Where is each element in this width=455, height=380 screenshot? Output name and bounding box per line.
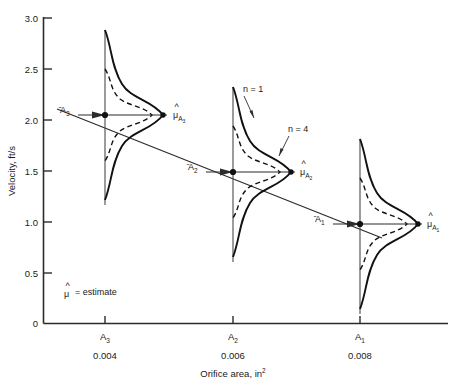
velocity-vs-orifice-area-chart: 3.0 2.5 2.0 1.5 1.0 0.5 0 Velocity, ft/s… [0,0,455,380]
curve-annotation-n4-label: n = 4 [288,124,308,134]
legend-note: μ ^ = estimate [64,281,117,299]
x-value-label-0.008: 0.008 [348,350,372,361]
y-tick-label-2.0: 2.0 [25,115,38,126]
legend-note-text: = estimate [75,287,117,297]
x-axis-value-labels: 0.004 0.006 0.008 [93,350,372,361]
x-axis-ticks [105,316,360,324]
legend-note-hat: ^ [65,281,70,291]
curve-annotation-n1-arrowhead [250,110,255,118]
y-tick-label-0: 0 [33,318,38,329]
distribution-A2: ̄A2 μA2 ^ [186,87,313,262]
sample-mean-label-A2-sub: 2 [194,167,198,174]
sample-mean-label-A3: ̄A3 [58,105,70,117]
y-tick-label-0.5: 0.5 [25,268,38,279]
distribution-A1: ̄A1 μA1 ^ [313,139,440,314]
x-axis-title-exponent: 2 [262,367,266,374]
estimate-hat-A2: ^ [301,159,306,169]
curve-annotation-n1-label: n = 1 [243,84,263,94]
curve-annotation-n4: n = 4 [279,124,308,156]
sample-mean-dot-A3 [102,112,108,118]
sample-mean-label-A3-sub: 3 [66,110,70,117]
x-axis-title-main: Orifice area, in [200,368,262,379]
estimate-hat-A1: ^ [428,211,433,221]
x-axis-group-labels: A3 A2 A1 [100,331,365,344]
x-tick-label-A1: A1 [355,331,365,344]
estimate-label-A3: μA3 [173,110,186,124]
estimate-label-A2-subsub: 2 [310,175,313,181]
estimate-label-A2: μA2 [300,167,313,181]
y-tick-label-1.0: 1.0 [25,217,38,228]
curve-annotation-n1: n = 1 [243,84,263,118]
estimate-label-A1: μA1 [427,219,440,233]
estimate-hat-A3: ^ [174,102,179,112]
regression-line [57,109,382,238]
sample-mean-label-A1-sub: 1 [321,219,325,226]
x-value-label-0.006: 0.006 [221,350,245,361]
x-tick-label-A2-sub: 2 [234,337,238,344]
y-tick-label-3.0: 3.0 [25,13,38,24]
y-tick-label-2.5: 2.5 [25,64,38,75]
estimate-dot-A3 [160,112,165,117]
y-axis-ticks [44,18,53,273]
y-axis-tick-labels: 3.0 2.5 2.0 1.5 1.0 0.5 0 [25,13,38,330]
estimate-label-A3-subsub: 3 [183,118,186,124]
sample-mean-dot-A2 [230,169,236,175]
figure-canvas: 3.0 2.5 2.0 1.5 1.0 0.5 0 Velocity, ft/s… [0,0,455,380]
sample-mean-dot-A1 [357,221,363,227]
curve-annotation-n4-arrowhead [279,148,284,156]
x-tick-label-A2: A2 [228,331,238,344]
x-tick-label-A1-sub: 1 [361,337,365,344]
estimate-label-A1-subsub: 1 [437,227,440,233]
x-value-label-0.004: 0.004 [93,350,117,361]
x-tick-label-A3: A3 [100,331,110,344]
x-axis-title: Orifice area, in2 [200,367,266,379]
x-tick-label-A3-sub: 3 [106,337,110,344]
y-axis-title: Velocity, ft/s [6,146,17,196]
estimate-dot-A2 [288,169,293,174]
axes-group [44,17,449,324]
y-tick-label-1.5: 1.5 [25,166,38,177]
estimate-dot-A1 [415,221,420,226]
sample-mean-label-A1: ̄A1 [313,214,325,226]
